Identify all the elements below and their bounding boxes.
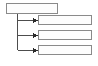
child-node-box-1[interactable]: [38, 15, 92, 25]
child-node-box-2[interactable]: [38, 30, 92, 40]
child-node-box-3[interactable]: [38, 45, 92, 55]
diagram-canvas: [0, 0, 98, 66]
parent-node-box[interactable]: [6, 3, 58, 14]
